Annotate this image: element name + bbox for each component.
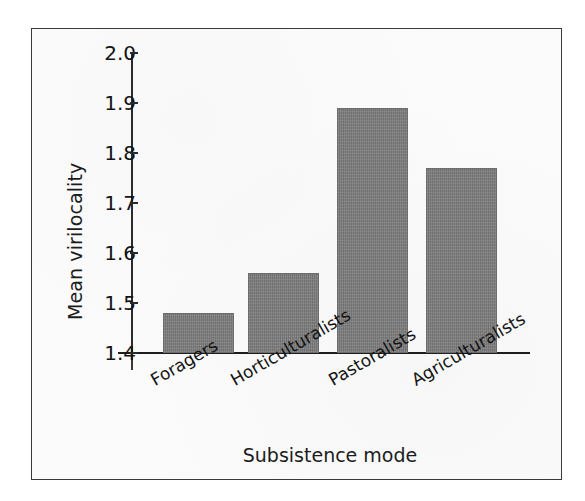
- x-axis-title: Subsistence mode: [130, 444, 530, 466]
- bar-agriculturalists[interactable]: [426, 168, 497, 353]
- bars-layer: Foragers Horticulturalists Pastoralists …: [0, 0, 585, 501]
